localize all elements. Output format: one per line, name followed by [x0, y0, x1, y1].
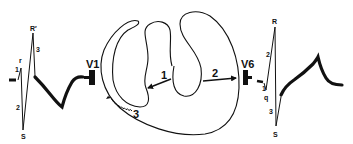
v1-s-label: S	[21, 133, 26, 140]
v1-ecg-trace	[9, 33, 83, 130]
vector-2-arrow	[203, 78, 236, 81]
v1-electrode-icon	[84, 70, 95, 85]
vector-3-label: 3	[133, 108, 139, 120]
v1-segment-2-label: 2	[16, 104, 20, 111]
diagram-canvas: r 1 2 3 R′ S V1 1 2 3 V6 R 2 1 q	[0, 0, 353, 144]
v6-r-label: R	[272, 18, 277, 25]
v6-segment-2-label: 2	[266, 51, 270, 58]
heart-outline	[101, 12, 239, 135]
v1-r-label: r	[19, 57, 22, 64]
v6-lead-label: V6	[241, 58, 254, 70]
v6-segment-1-label: 1	[262, 85, 266, 92]
v1-qrs-complex	[18, 33, 35, 130]
v6-st-t-wave	[281, 57, 342, 95]
v6-segment-3-label: 3	[269, 108, 273, 115]
v1-segment-3-label: 3	[36, 46, 40, 53]
v6-s-label: S	[273, 131, 278, 138]
v6-baseline-stub	[257, 81, 263, 82]
v1-big-r-label: R′	[30, 25, 37, 32]
vector-1-arrow	[148, 79, 171, 88]
v6-q-label: q	[264, 94, 268, 102]
v1-lead-label: V1	[86, 58, 99, 70]
v6-electrode-icon	[243, 70, 252, 85]
v1-st-t-wave	[35, 77, 83, 107]
rv-inner-wall	[113, 21, 172, 107]
v1-segment-1-label: 1	[15, 66, 19, 73]
vector-2-label: 2	[212, 67, 218, 79]
vector-1-label: 1	[161, 69, 167, 81]
